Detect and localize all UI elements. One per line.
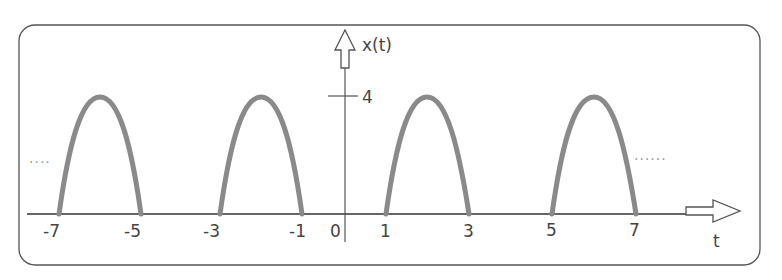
pulse-4 [552, 97, 636, 214]
x-axis-label: t [713, 231, 720, 251]
x-tick-label: -1 [289, 221, 306, 241]
continuation-left: .... [29, 150, 51, 166]
pulse-2 [220, 97, 302, 214]
x-tick-label: 1 [380, 221, 391, 241]
y-tick-label: 4 [362, 87, 373, 107]
y-axis-label: x(t) [362, 35, 392, 55]
x-tick-label: 5 [546, 220, 557, 240]
x-tick-label: 7 [629, 220, 640, 240]
pulses [59, 97, 636, 214]
x-tick-label: -7 [43, 221, 60, 241]
x-tick-label: 3 [463, 221, 474, 241]
x-axis-arrow-icon [335, 30, 355, 68]
pulse-1 [59, 97, 141, 214]
pulse-3 [386, 97, 469, 214]
t-axis-arrow-icon [686, 200, 740, 222]
x-tick-label: -5 [124, 221, 141, 241]
x-tick-label: -3 [203, 221, 220, 241]
continuation-right: ...... [634, 147, 667, 163]
signal-diagram: .... ...... x(t) 4 t -7 -5 -3 -1 0 1 3 5… [0, 0, 782, 280]
x-tick-label: 0 [330, 221, 341, 241]
